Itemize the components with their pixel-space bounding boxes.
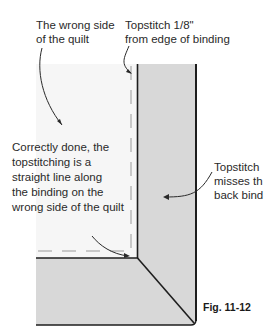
label-topstitch-misses: Topstitch misses th back bind (214, 160, 263, 202)
label-wrong-side: The wrong side of the quilt (36, 18, 115, 46)
figure-caption: Fig. 11-12 (203, 301, 251, 313)
label-correctly-done: Correctly done, the topstitching is a st… (12, 140, 124, 215)
quilt-binding-diagram: The wrong side of the quilt Topstitch 1/… (0, 0, 268, 328)
label-topstitch-edge: Topstitch 1/8" from edge of binding (125, 18, 230, 46)
